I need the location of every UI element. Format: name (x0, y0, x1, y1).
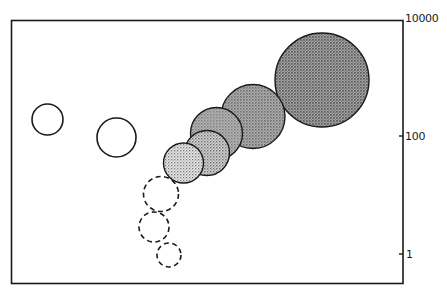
bubble-open-1 (32, 104, 63, 135)
y-axis: 10000 100 1 (399, 12, 439, 261)
series-dashed-circles (139, 177, 181, 268)
bubble-dashed-3 (157, 243, 181, 267)
bubble-dashed-2 (139, 212, 169, 242)
bubble-shaded-5 (275, 33, 369, 127)
series-open-circles (32, 104, 136, 157)
series-shaded-circles (164, 33, 370, 183)
y-tick-label-1: 1 (406, 248, 413, 261)
bubble-open-2 (97, 118, 136, 157)
bubble-shaded-1 (164, 143, 204, 183)
y-tick-label-100: 100 (405, 130, 425, 143)
bubble-dashed-1 (144, 177, 179, 212)
y-tick-label-10000: 10000 (405, 12, 439, 25)
bubble-chart: 10000 100 1 (0, 0, 447, 293)
